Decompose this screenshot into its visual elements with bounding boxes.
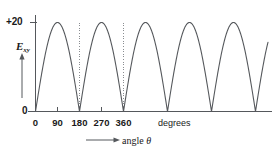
x-axis-title-word: angle [122, 135, 144, 146]
x-tick-label-270: 270 [94, 118, 110, 128]
data-curve-e-xy [36, 23, 268, 112]
x-axis-title-symbol: θ [146, 135, 151, 146]
y-axis-zero-label: 0 [22, 106, 28, 116]
y-axis-title-subscript: xy [23, 46, 30, 54]
x-tick-label-0: 0 [33, 118, 38, 128]
x-tick-label-180: 180 [72, 118, 88, 128]
x-axis-unit-label: degrees [158, 119, 191, 128]
chart-figure: +20 0 Exy degrees angle θ 090180270360 [0, 0, 279, 155]
y-axis-title: Exy [16, 41, 30, 54]
x-axis-arrow-head-icon [114, 138, 121, 143]
x-tick-label-90: 90 [52, 118, 63, 128]
x-tick-label-360: 360 [116, 118, 132, 128]
y-axis-max-label: +20 [6, 17, 22, 27]
x-axis-title: angle θ [122, 136, 151, 146]
chart-plot-area [0, 0, 279, 155]
